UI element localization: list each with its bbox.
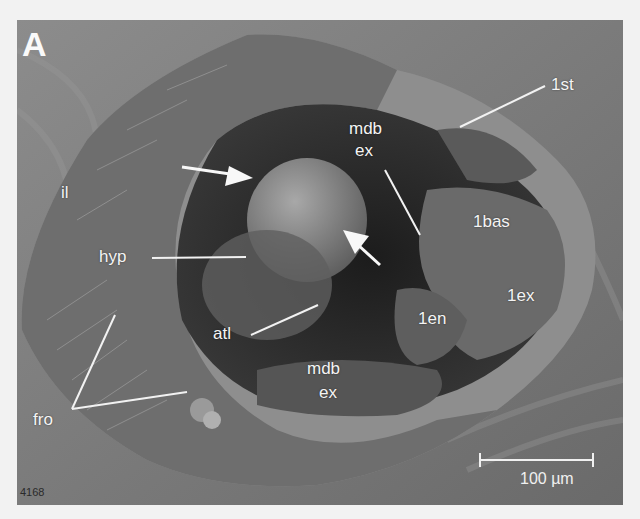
label-atl: atl [213, 325, 231, 343]
label-1bas: 1bas [473, 213, 510, 231]
sem-micrograph: A il hyp atl fro mdb ex mdb ex 1st 1bas … [17, 20, 623, 505]
label-ex-bottom: ex [319, 384, 337, 402]
label-mdb-top: mdb [349, 120, 382, 138]
scale-bar-label: 100 µm [520, 470, 574, 488]
label-1st: 1st [551, 76, 574, 94]
label-1ex: 1ex [507, 287, 534, 305]
image-id: 4168 [20, 486, 44, 498]
label-hyp: hyp [99, 248, 126, 266]
label-1en: 1en [418, 310, 446, 328]
label-ex-top: ex [355, 142, 373, 160]
label-mdb-bottom: mdb [307, 360, 340, 378]
label-fro: fro [33, 411, 53, 429]
label-il: il [61, 184, 69, 202]
panel-letter: A [22, 27, 47, 61]
